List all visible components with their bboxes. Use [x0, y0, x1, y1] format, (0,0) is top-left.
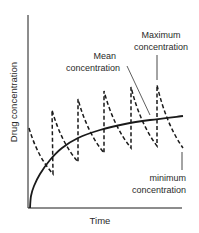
y-axis-label: Drug concentration [8, 62, 19, 142]
mean-label-line1: Mean [93, 51, 116, 61]
min-label-line1: minimum [149, 173, 186, 183]
dosing-concentration-curve [29, 85, 183, 174]
max-label-line1: Maximum [141, 30, 180, 40]
min-label-line2: concentration [132, 185, 186, 195]
mean-label-line2: concentration [66, 63, 120, 73]
max-label-line2: concentration [134, 42, 188, 52]
x-axis-label: Time [90, 215, 111, 226]
drug-concentration-chart: Maximum concentration Mean concentration… [0, 0, 199, 233]
